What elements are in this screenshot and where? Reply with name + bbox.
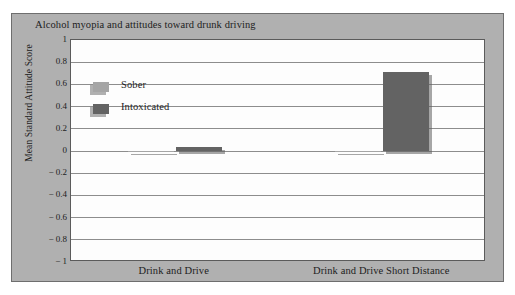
y-axis-tick-label: − 0.2 xyxy=(32,167,67,177)
x-axis-category-label: Drink and Drive Short Distance xyxy=(278,265,486,276)
bar-sober-2 xyxy=(335,151,381,152)
legend-item-intoxicated: Intoxicated xyxy=(90,102,210,124)
y-axis-tick-label: − 0.6 xyxy=(32,212,67,222)
legend-label-sober: Sober xyxy=(121,79,146,90)
bar-sober-1 xyxy=(128,151,174,152)
y-axis-tick-labels: 10.80.60.40.20− 0.2− 0.4− 0.6− 0.8− 1 xyxy=(32,39,67,261)
bar-intoxicated-2 xyxy=(383,72,429,151)
legend-swatch-intoxicated-icon xyxy=(90,104,108,115)
bars-layer xyxy=(71,40,484,260)
y-axis-tick-label: 0.6 xyxy=(32,78,67,88)
x-axis-category-label: Drink and Drive xyxy=(70,265,278,276)
bar-intoxicated-1 xyxy=(176,147,222,151)
y-axis-tick-label: 0 xyxy=(32,145,67,155)
y-axis-tick-label: − 0.4 xyxy=(32,189,67,199)
plot-area xyxy=(70,39,485,261)
legend-item-sober: Sober xyxy=(90,80,210,102)
y-axis-tick-label: − 1 xyxy=(32,256,67,266)
legend-label-intoxicated: Intoxicated xyxy=(121,101,169,112)
chart-title: Alcohol myopia and attitudes toward drun… xyxy=(35,19,256,30)
y-axis-tick-label: 0.8 xyxy=(32,56,67,66)
legend-swatch-sober-icon xyxy=(90,82,108,93)
y-axis-tick-label: 0.2 xyxy=(32,123,67,133)
y-axis-tick-label: 1 xyxy=(32,34,67,44)
x-axis-category-labels: Drink and DriveDrink and Drive Short Dis… xyxy=(70,265,485,283)
chart-legend: Sober Intoxicated xyxy=(90,80,210,124)
y-axis-tick-label: 0.4 xyxy=(32,101,67,111)
y-axis-tick-label: − 0.8 xyxy=(32,234,67,244)
chart-figure: Alcohol myopia and attitudes toward drun… xyxy=(11,13,504,282)
